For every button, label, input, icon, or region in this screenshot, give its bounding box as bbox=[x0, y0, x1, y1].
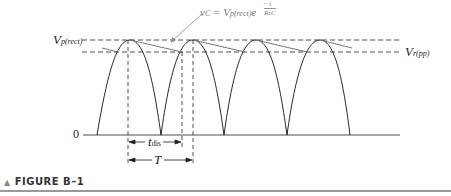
rectifier-waveform-diagram bbox=[0, 0, 451, 196]
v-ripple-subscript: r(pp) bbox=[413, 49, 429, 58]
zero-label: 0 bbox=[73, 127, 79, 142]
equation-leader bbox=[173, 14, 202, 40]
eq-exp-num: t bbox=[269, 0, 271, 8]
eq-mid-sub: p(rect) bbox=[230, 9, 251, 18]
caption-text: FIGURE B–1 bbox=[15, 176, 84, 187]
eq-mid: = V bbox=[210, 6, 230, 18]
t-dis-subscript: dis bbox=[152, 139, 161, 148]
discharge-equation: vC = Vp(rect)e bbox=[200, 6, 256, 18]
equation-exponent: − t RLC bbox=[258, 0, 276, 18]
figure-caption: ▲FIGURE B–1 bbox=[4, 176, 84, 187]
v-peak-symbol: V bbox=[53, 32, 61, 47]
rectified-waveform bbox=[97, 40, 350, 135]
v-ripple-label: Vr(pp) bbox=[405, 44, 429, 60]
v-ripple-symbol: V bbox=[405, 44, 413, 59]
period-label: T bbox=[154, 152, 161, 168]
caption-bar bbox=[0, 190, 451, 192]
v-peak-subscript: p(rect) bbox=[61, 37, 82, 46]
v-peak-label: Vp(rect) bbox=[53, 32, 82, 48]
triangle-icon: ▲ bbox=[4, 178, 11, 187]
eq-e: e bbox=[251, 6, 256, 18]
eq-exp-den-tail: C bbox=[271, 9, 276, 17]
t-dis-label: tdis bbox=[148, 134, 161, 150]
